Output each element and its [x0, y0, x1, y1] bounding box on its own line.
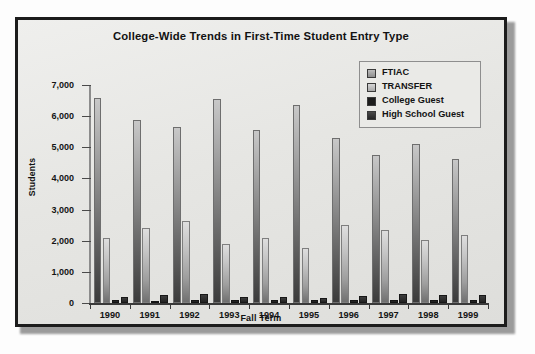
bar [359, 296, 367, 303]
bar [253, 130, 261, 303]
x-axis-tick-mark [209, 304, 210, 309]
x-axis-tick-mark [369, 304, 370, 309]
x-axis-tick-mark [488, 304, 489, 309]
bar [213, 99, 221, 303]
chart-frame: College-Wide Trends in First-Time Studen… [15, 17, 507, 327]
bar [461, 235, 469, 303]
bar [341, 225, 349, 303]
x-axis-tick-mark [249, 304, 250, 309]
bar [302, 248, 310, 303]
bar [142, 228, 150, 303]
bar [399, 294, 407, 303]
x-axis-tick-mark [130, 304, 131, 309]
bar [103, 238, 111, 303]
bar [200, 294, 208, 303]
bars-layer [18, 20, 504, 324]
bar [182, 221, 190, 303]
bar [332, 138, 340, 303]
x-axis-tick-mark [329, 304, 330, 309]
bar [479, 295, 487, 303]
bar [262, 238, 270, 303]
x-axis-tick-mark [289, 304, 290, 309]
x-axis-tick-mark [170, 304, 171, 309]
bar [421, 240, 429, 303]
bar [439, 295, 447, 303]
x-axis-tick-mark [408, 304, 409, 309]
chart-surface: College-Wide Trends in First-Time Studen… [18, 20, 504, 324]
x-axis-tick-mark [448, 304, 449, 309]
bar [133, 120, 141, 303]
photo-page: College-Wide Trends in First-Time Studen… [0, 0, 535, 354]
bar [381, 230, 389, 303]
bar [372, 155, 380, 303]
bar [452, 159, 460, 303]
x-axis-tick-mark [90, 304, 91, 309]
bar [94, 98, 102, 303]
bar [412, 144, 420, 303]
bar [173, 127, 181, 303]
x-axis-title: Fall Term [18, 313, 504, 323]
bar [222, 244, 230, 303]
bar [293, 105, 301, 303]
bar [160, 295, 168, 303]
